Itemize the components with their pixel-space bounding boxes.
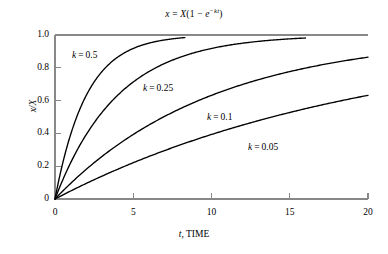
curve-label-equals: = xyxy=(211,112,220,122)
curve-label-value: 0.5 xyxy=(86,50,98,60)
figure-container: x=X(1−e−kt) 00.20.40.60.81.0 05101520 k=… xyxy=(0,0,388,254)
y-tick-label: 0.4 xyxy=(11,127,49,137)
curve-3 xyxy=(55,95,368,199)
curve-label-equals: = xyxy=(76,50,85,60)
curve-2 xyxy=(55,57,368,199)
x-axis-title: t, TIME xyxy=(0,229,388,239)
x-tick-label: 15 xyxy=(270,207,310,217)
curve-label-value: 0.1 xyxy=(221,112,233,122)
curve-label-equals: = xyxy=(147,83,156,93)
curve-label-equals: = xyxy=(252,142,261,152)
x-tick-label: 0 xyxy=(35,207,75,217)
x-tick-label: 20 xyxy=(348,207,388,217)
x-tick-label: 5 xyxy=(113,207,153,217)
x-axis-title-rest: , TIME xyxy=(181,229,209,239)
x-tick-label: 10 xyxy=(192,207,232,217)
curve-label-3: k=0.05 xyxy=(248,142,278,152)
y-tick-label: 0 xyxy=(11,193,49,203)
curve-label-2: k=0.1 xyxy=(207,112,232,122)
curve-0 xyxy=(55,38,185,199)
y-tick-label: 0.8 xyxy=(11,62,49,72)
curve-label-0: k=0.5 xyxy=(72,50,97,60)
y-tick-label: 1.0 xyxy=(11,29,49,39)
y-tick-label: 0.2 xyxy=(11,160,49,170)
curve-label-value: 0.25 xyxy=(157,83,174,93)
y-axis-title: x/X xyxy=(28,86,38,126)
curve-label-1: k=0.25 xyxy=(143,83,173,93)
curve-label-value: 0.05 xyxy=(262,142,279,152)
